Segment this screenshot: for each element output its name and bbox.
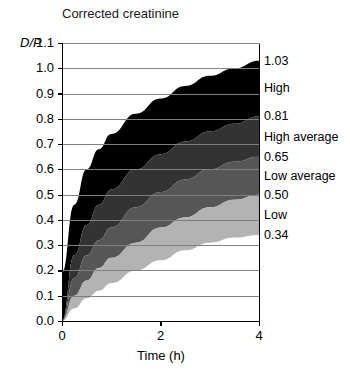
chart-figure: Corrected creatinine D/P 0.00.10.20.30.4… <box>0 0 350 374</box>
x-axis-title: Time (h) <box>0 348 322 364</box>
plot-area <box>0 0 350 374</box>
